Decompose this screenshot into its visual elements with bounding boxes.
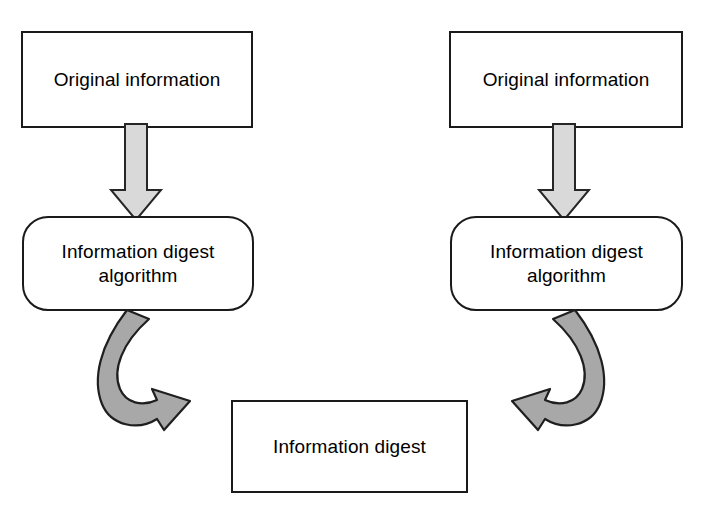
node-digest-algorithm-left[interactable]: Information digest algorithm: [22, 216, 254, 311]
block-arrow-down-right-icon: [536, 124, 592, 224]
node-information-digest[interactable]: Information digest: [231, 400, 468, 493]
node-original-information-right[interactable]: Original information: [449, 31, 683, 128]
node-label: Original information: [477, 68, 656, 91]
node-original-information-left[interactable]: Original information: [21, 31, 253, 128]
node-digest-algorithm-right[interactable]: Information digest algorithm: [450, 216, 683, 311]
curved-arrow-down-right-icon: [80, 303, 215, 431]
node-label: Information digest algorithm: [56, 240, 221, 286]
node-label: Information digest: [267, 435, 432, 458]
diagram-canvas: Original information Information digest …: [0, 0, 704, 523]
node-label: Information digest algorithm: [484, 240, 649, 286]
curved-arrow-down-left-icon: [487, 303, 622, 431]
node-label: Original information: [48, 68, 227, 91]
block-arrow-down-left-icon: [108, 124, 164, 224]
